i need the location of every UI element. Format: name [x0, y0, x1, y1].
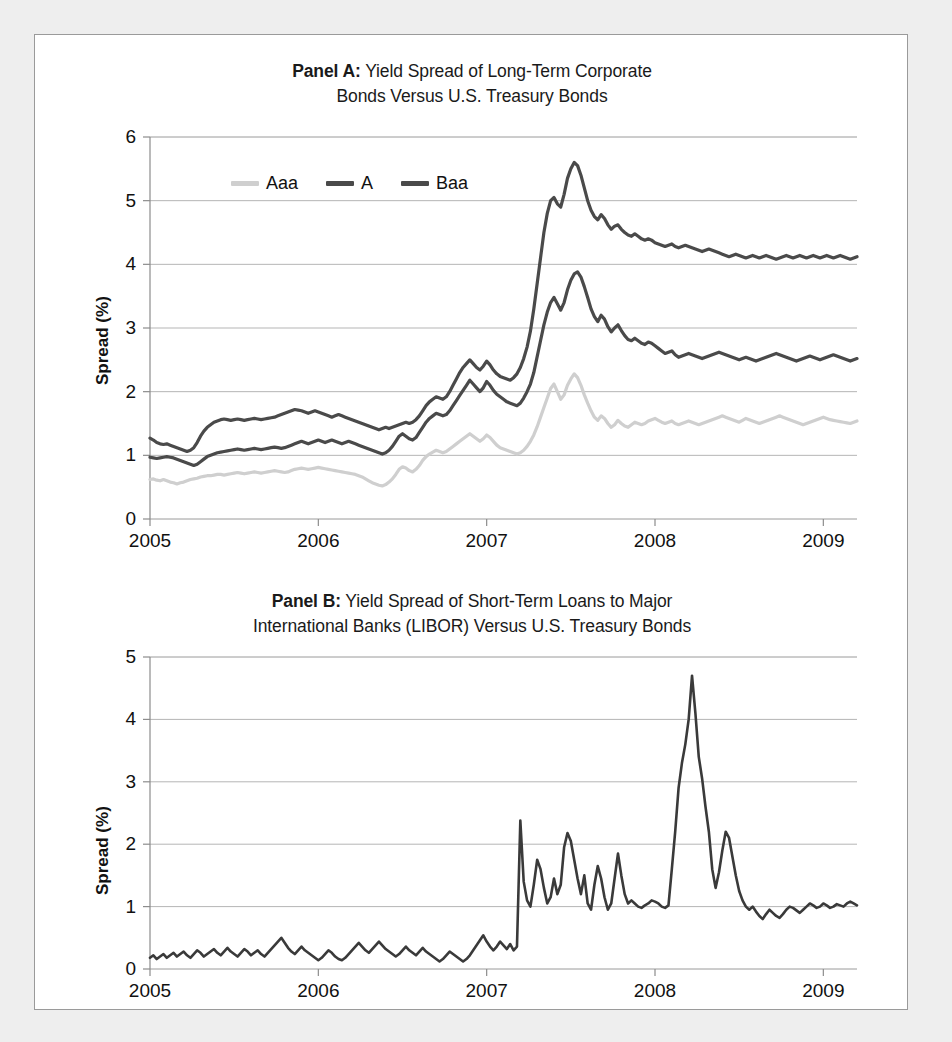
- y-tick-label: 1: [102, 445, 136, 464]
- panel-b-title-rest: Yield Spread of Short-Term Loans to Majo…: [341, 591, 672, 611]
- series-line-aaa: [150, 374, 857, 486]
- x-tick-label: 2008: [610, 981, 700, 1000]
- panel-a-title-lead: Panel A:: [292, 61, 361, 81]
- x-tick-label: 2007: [442, 981, 532, 1000]
- y-tick-label: 2: [102, 834, 136, 853]
- panel-a: Panel A: Yield Spread of Long-Term Corpo…: [35, 45, 909, 575]
- x-tick-label: 2006: [273, 981, 363, 1000]
- y-tick-label: 6: [102, 127, 136, 146]
- panel-b-chart-svg: [150, 657, 857, 969]
- y-tick-label: 3: [102, 772, 136, 791]
- panel-a-title-rest: Yield Spread of Long-Term Corporate: [361, 61, 652, 81]
- x-tick-label: 2009: [778, 981, 868, 1000]
- panel-b-title-line2: International Banks (LIBOR) Versus U.S. …: [35, 614, 909, 639]
- figure-card: Panel A: Yield Spread of Long-Term Corpo…: [34, 34, 908, 1010]
- panel-a-chart-svg: [150, 137, 857, 519]
- panel-b-plot-area: [150, 657, 857, 969]
- panel-b: Panel B: Yield Spread of Short-Term Loan…: [35, 575, 909, 1005]
- panel-a-plot-area: [150, 137, 857, 519]
- y-tick-label: 4: [102, 254, 136, 273]
- panel-b-title-lead: Panel B:: [272, 591, 341, 611]
- y-tick-label: 0: [102, 509, 136, 528]
- series-line-libor-spread: [150, 676, 857, 962]
- x-tick-label: 2009: [778, 531, 868, 550]
- x-tick-label: 2007: [442, 531, 532, 550]
- y-tick-label: 5: [102, 191, 136, 210]
- panel-b-title: Panel B: Yield Spread of Short-Term Loan…: [35, 589, 909, 639]
- series-line-baa: [150, 162, 857, 451]
- y-tick-label: 0: [102, 959, 136, 978]
- panel-a-y-axis-label: Spread (%): [93, 296, 113, 385]
- x-tick-label: 2005: [105, 531, 195, 550]
- y-tick-label: 4: [102, 709, 136, 728]
- y-tick-label: 5: [102, 647, 136, 666]
- panel-a-title-line2: Bonds Versus U.S. Treasury Bonds: [35, 84, 909, 109]
- x-tick-label: 2006: [273, 531, 363, 550]
- figure-page: Panel A: Yield Spread of Long-Term Corpo…: [0, 0, 952, 1042]
- x-tick-label: 2005: [105, 981, 195, 1000]
- y-tick-label: 3: [102, 318, 136, 337]
- series-line-a: [150, 272, 857, 466]
- y-tick-label: 2: [102, 382, 136, 401]
- y-tick-label: 1: [102, 897, 136, 916]
- x-tick-label: 2008: [610, 531, 700, 550]
- panel-a-title: Panel A: Yield Spread of Long-Term Corpo…: [35, 59, 909, 109]
